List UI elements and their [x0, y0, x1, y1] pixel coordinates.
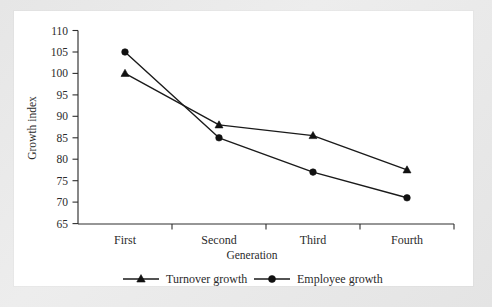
series-turnover-growth	[121, 69, 411, 173]
triangle-marker	[215, 121, 223, 128]
y-tick-label: 110	[51, 25, 68, 37]
circle-marker	[122, 49, 129, 56]
y-tick-label: 105	[51, 46, 69, 58]
y-tick-label: 75	[57, 175, 69, 187]
y-tick-label: 100	[51, 67, 69, 79]
x-category-label: Third	[300, 233, 327, 247]
y-axis-title: Growth index	[26, 96, 38, 160]
y-tick-label: 90	[57, 110, 69, 122]
circle-marker	[404, 195, 411, 202]
y-tick-label: 65	[57, 218, 69, 230]
chart-legend: Turnover growth Employee growth	[123, 272, 383, 286]
legend-entry-turnover-growth[interactable]: Turnover growth	[123, 272, 247, 286]
triangle-marker	[121, 69, 129, 76]
y-tick-label: 85	[57, 132, 69, 144]
y-tick-label: 70	[57, 196, 69, 208]
chart-card: 110 105 100 95 90 85 80 75 70 65 Growth …	[14, 11, 473, 286]
series-employee-growth	[122, 49, 411, 201]
y-tick-label: 95	[57, 89, 69, 101]
circle-marker	[310, 169, 317, 176]
y-tick-label: 80	[57, 153, 69, 165]
line-chart: 110 105 100 95 90 85 80 75 70 65 Growth …	[14, 11, 473, 286]
series-line-employee-growth	[125, 52, 407, 198]
circle-marker	[216, 135, 223, 142]
x-axis-title: Generation	[226, 249, 277, 261]
figure-root: 110 105 100 95 90 85 80 75 70 65 Growth …	[0, 0, 492, 307]
legend-label-turnover-growth: Turnover growth	[166, 272, 247, 286]
circle-marker	[269, 276, 276, 283]
legend-entry-employee-growth[interactable]: Employee growth	[254, 272, 383, 286]
y-tick-labels: 110 105 100 95 90 85 80 75 70 65	[51, 25, 69, 230]
y-tick-marks	[73, 31, 79, 224]
x-category-label: Fourth	[391, 233, 423, 247]
x-category-label: Second	[201, 233, 236, 247]
x-category-label: First	[114, 233, 137, 247]
x-tick-labels: First Second Third Fourth	[114, 233, 423, 247]
x-tick-marks	[172, 224, 454, 230]
legend-label-employee-growth: Employee growth	[297, 272, 383, 286]
